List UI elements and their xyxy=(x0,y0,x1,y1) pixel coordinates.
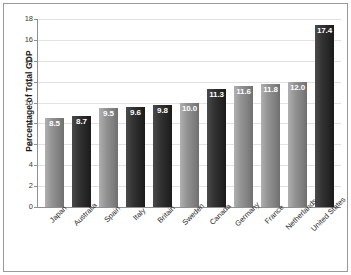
bar-slot: 11.8 xyxy=(257,19,284,207)
bar-slot: 9.6 xyxy=(122,19,149,207)
x-label-slot: France xyxy=(257,208,284,272)
x-label-slot: Japan xyxy=(41,208,68,272)
y-axis-tick-label: 12 xyxy=(25,78,33,86)
bar[interactable]: 11.6 xyxy=(234,86,252,207)
bar-slot: 8.7 xyxy=(68,19,95,207)
x-label-slot: Australia xyxy=(68,208,95,272)
x-label-slot: Italy xyxy=(122,208,149,272)
bar[interactable]: 12.0 xyxy=(288,82,306,207)
x-axis-tick-label: Spain xyxy=(102,204,122,224)
y-axis-tick-label: 6 xyxy=(29,140,33,148)
bar[interactable]: 9.8 xyxy=(153,105,171,207)
chart-figure: Percentage of Total GDP 181614121086420 … xyxy=(0,0,351,275)
bar[interactable]: 8.7 xyxy=(72,116,90,207)
bar[interactable]: 11.8 xyxy=(261,84,279,207)
x-label-slot: Spain xyxy=(95,208,122,272)
bar-value-label: 8.5 xyxy=(45,120,63,128)
bar-slot: 11.3 xyxy=(203,19,230,207)
bar-value-label: 10.0 xyxy=(180,105,198,113)
x-label-slot: Sweden xyxy=(176,208,203,272)
bar[interactable]: 9.6 xyxy=(126,107,144,207)
bar-value-label: 12.0 xyxy=(288,84,306,92)
y-axis-tick-label: 4 xyxy=(29,161,33,169)
y-axis-tick-label: 0 xyxy=(29,203,33,211)
bar[interactable]: 10.0 xyxy=(180,103,198,207)
x-label-slot: Canada xyxy=(203,208,230,272)
x-label-slot: Britain xyxy=(149,208,176,272)
x-label-slot: United States xyxy=(311,208,338,272)
bar[interactable]: 8.5 xyxy=(45,118,63,207)
bar-value-label: 9.8 xyxy=(153,107,171,115)
bar[interactable]: 17.4 xyxy=(315,25,333,207)
x-label-slot: Netherlands xyxy=(284,208,311,272)
y-axis-tick-label: 2 xyxy=(29,182,33,190)
x-label-slot: Germany xyxy=(230,208,257,272)
bar[interactable]: 9.5 xyxy=(99,108,117,207)
bar-slot: 9.5 xyxy=(95,19,122,207)
bar-slot: 12.0 xyxy=(284,19,311,207)
y-axis-tick-label: 14 xyxy=(25,57,33,65)
y-axis-tick-label: 18 xyxy=(25,15,33,23)
x-axis-tick-label: Italy xyxy=(131,206,147,222)
plot-area: 8.58.79.59.69.810.011.311.611.812.017.4 xyxy=(38,19,341,207)
bar-value-label: 11.3 xyxy=(207,91,225,99)
bar-slot: 17.4 xyxy=(311,19,338,207)
x-axis-tick-labels: JapanAustraliaSpainItalyBritainSwedenCan… xyxy=(38,208,341,272)
y-axis-tick-labels: 181614121086420 xyxy=(0,0,36,275)
bar-slot: 9.8 xyxy=(149,19,176,207)
bar-value-label: 11.8 xyxy=(261,86,279,94)
bar-series: 8.58.79.59.69.810.011.311.611.812.017.4 xyxy=(38,19,341,207)
y-axis-tick-label: 10 xyxy=(25,99,33,107)
bar-value-label: 8.7 xyxy=(72,118,90,126)
bar-slot: 10.0 xyxy=(176,19,203,207)
bar-slot: 11.6 xyxy=(230,19,257,207)
bar[interactable]: 11.3 xyxy=(207,89,225,207)
bar-slot: 8.5 xyxy=(41,19,68,207)
y-axis-tick-label: 8 xyxy=(29,119,33,127)
y-axis-tick-label: 16 xyxy=(25,36,33,44)
bar-value-label: 9.5 xyxy=(99,110,117,118)
bar-value-label: 17.4 xyxy=(315,27,333,35)
bar-value-label: 9.6 xyxy=(126,109,144,117)
bar-value-label: 11.6 xyxy=(234,88,252,96)
